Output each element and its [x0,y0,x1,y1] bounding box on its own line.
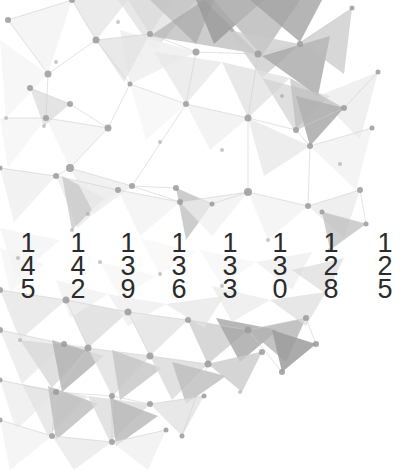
numeric-label-digit: 3 [222,276,237,299]
numeric-label-digit: 3 [222,253,237,276]
numeric-label-digit: 1 [171,230,186,253]
numeric-label-digit: 5 [377,276,392,299]
numeric-labels-layer: 145142139136133130128125 [0,0,404,470]
numeric-label-digit: 5 [20,276,35,299]
numeric-label-digit: 0 [272,276,287,299]
numeric-label-136: 136 [165,230,193,299]
numeric-label-digit: 2 [377,253,392,276]
numeric-label-digit: 4 [70,253,85,276]
numeric-label-125: 125 [371,230,399,299]
numeric-label-digit: 6 [171,276,186,299]
numeric-label-digit: 1 [272,230,287,253]
numeric-label-digit: 1 [70,230,85,253]
numeric-label-digit: 1 [120,230,135,253]
numeric-label-139: 139 [114,230,142,299]
numeric-label-digit: 1 [377,230,392,253]
numeric-label-145: 145 [14,230,42,299]
numeric-label-digit: 1 [222,230,237,253]
numeric-label-digit: 2 [70,276,85,299]
numeric-label-digit: 3 [272,253,287,276]
numeric-label-digit: 4 [20,253,35,276]
numeric-label-digit: 2 [323,253,338,276]
numeric-label-digit: 9 [120,276,135,299]
numeric-label-142: 142 [64,230,92,299]
numeric-label-digit: 8 [323,276,338,299]
numeric-label-digit: 3 [120,253,135,276]
low-poly-background-canvas: 145142139136133130128125 [0,0,404,470]
numeric-label-133: 133 [216,230,244,299]
numeric-label-128: 128 [317,230,345,299]
numeric-label-130: 130 [266,230,294,299]
numeric-label-digit: 3 [171,253,186,276]
numeric-label-digit: 1 [20,230,35,253]
numeric-label-digit: 1 [323,230,338,253]
